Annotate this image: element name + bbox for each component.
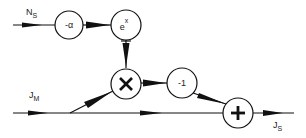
- output-js: JS: [253, 110, 294, 132]
- input-ns: NS: [13, 7, 55, 28]
- edge-multiply-to-neg-one: [141, 80, 167, 87]
- signal-flow-diagram: NS JM JS -α: [0, 0, 306, 138]
- edge-exp-to-multiply: [121, 40, 131, 68]
- edge-neg-alpha-to-exp: [83, 22, 111, 29]
- arrow-icon: [263, 110, 283, 116]
- arrow-icon: [84, 92, 112, 109]
- arrow-icon: [28, 111, 48, 116]
- edge-jm-to-multiply: [70, 91, 113, 113]
- node-neg-one: -1: [167, 68, 197, 98]
- arrow-icon: [123, 43, 130, 67]
- input-ns-label: NS: [26, 7, 38, 19]
- arrow-icon: [22, 23, 42, 28]
- input-jm-label: JM: [29, 90, 40, 102]
- node-multiply: [111, 69, 141, 99]
- node-sum: [223, 98, 253, 128]
- svg-text:-1: -1: [178, 78, 186, 88]
- arrow-icon: [140, 111, 162, 116]
- node-exp: ex: [111, 10, 141, 40]
- output-js-label: JS: [273, 120, 283, 132]
- edge-neg-one-to-sum: [193, 93, 226, 104]
- svg-text:-α: -α: [65, 20, 73, 30]
- arrow-icon: [143, 80, 166, 87]
- node-neg-alpha: -α: [55, 11, 83, 39]
- arrow-icon: [86, 22, 110, 29]
- arrow-icon: [197, 93, 226, 104]
